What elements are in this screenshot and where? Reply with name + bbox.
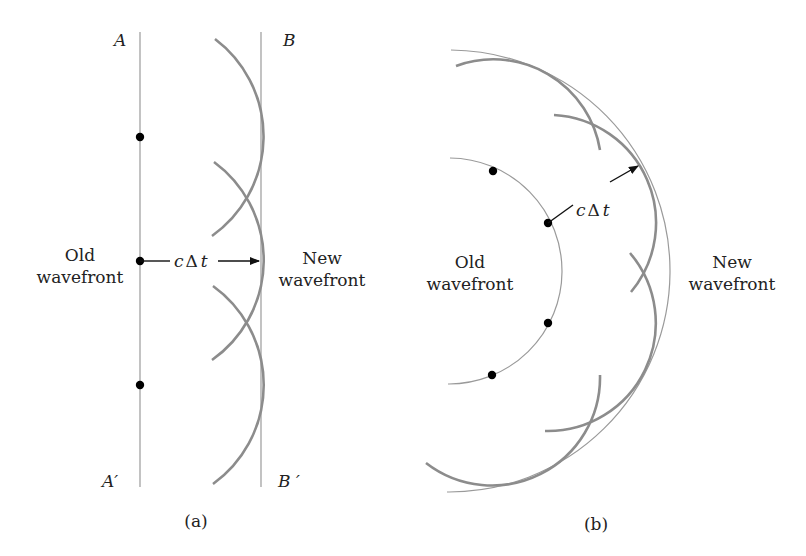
arrow-tail xyxy=(548,205,573,223)
old-wavefront-label: Old xyxy=(455,252,485,272)
arrow-label: cΔt xyxy=(174,251,208,271)
new-wavefront-label: wavefront xyxy=(689,274,776,294)
wavelet-a-1 xyxy=(212,39,264,236)
source-point xyxy=(488,371,496,379)
caption-b: (b) xyxy=(584,514,608,534)
old-wavefront-label: wavefront xyxy=(37,267,124,287)
old-wavefront-label: Old xyxy=(65,245,95,265)
label-A-prime: A′ xyxy=(100,471,118,491)
label-A: A xyxy=(112,30,126,50)
source-point xyxy=(136,133,144,141)
panel-a: cΔt A B A′ B ′ Old wavefront New wavefro… xyxy=(37,30,366,531)
new-wavefront-label: New xyxy=(302,248,342,268)
label-B: B xyxy=(282,30,296,50)
new-wavefront-label: wavefront xyxy=(279,270,366,290)
source-point xyxy=(136,381,144,389)
caption-a: (a) xyxy=(184,511,207,531)
old-wavefront-label: wavefront xyxy=(427,274,514,294)
wavelet-b-4 xyxy=(426,375,600,486)
wavelet-a-3 xyxy=(213,286,264,484)
label-B-prime: B ′ xyxy=(277,471,300,491)
source-point xyxy=(544,319,552,327)
wavelet-b-1 xyxy=(456,59,600,150)
panel-b: cΔt Old wavefront New wavefront (b) xyxy=(426,50,776,534)
source-point xyxy=(489,167,497,175)
arrow-label: cΔt xyxy=(576,200,610,220)
new-wavefront-label: New xyxy=(712,252,752,272)
huygens-diagram: cΔt A B A′ B ′ Old wavefront New wavefro… xyxy=(0,0,806,556)
arrow-head xyxy=(610,166,638,182)
